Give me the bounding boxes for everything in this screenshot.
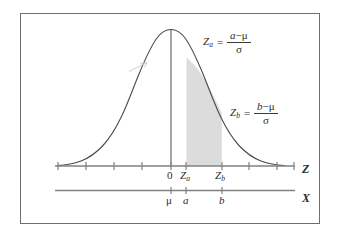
x-tick-label-mu: μ (166, 195, 172, 206)
x-axis-name-label: X (302, 192, 310, 204)
z-b-fraction: b−μ σ (254, 101, 278, 126)
z-axis-name-label: Z (302, 163, 309, 175)
z-a-fraction: a−μ σ (227, 30, 251, 55)
z-tick-label-zero: 0 (167, 170, 173, 181)
z-a-formula: Za = a−μ σ (203, 30, 251, 55)
shaded-region-path (187, 58, 222, 166)
z-tick-label-za: Za (180, 170, 190, 182)
z-b-formula: Zb = b−μ σ (230, 101, 278, 126)
x-tick-label-a: a (183, 195, 189, 206)
normal-distribution-figure: 0 Za Zb μ a b Z X Za = a−μ σ Zb = (0, 0, 338, 237)
scan-artifact-mark (129, 63, 147, 72)
z-tick-label-zb: Zb (215, 170, 225, 182)
x-tick-label-b: b (219, 195, 225, 206)
